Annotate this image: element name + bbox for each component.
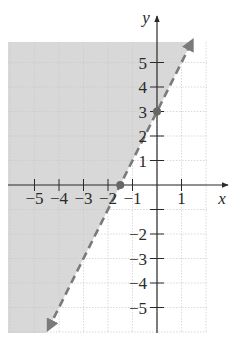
x-tick-label: −5 <box>25 189 43 208</box>
y-tick-label: 3 <box>139 103 148 122</box>
y-tick-label: 2 <box>139 127 148 146</box>
intercept-point <box>153 108 161 116</box>
x-tick-label: −2 <box>99 189 117 208</box>
x-tick-label: −1 <box>123 189 141 208</box>
shaded-region <box>8 42 192 333</box>
x-tick-label: −4 <box>50 189 69 208</box>
y-tick-label: 4 <box>139 78 148 97</box>
x-tick-label: 1 <box>177 189 186 208</box>
x-axis-label: x <box>217 189 226 208</box>
y-axis-label: y <box>140 8 150 27</box>
y-tick-label: −3 <box>129 250 147 269</box>
x-tick-label: −3 <box>74 189 92 208</box>
shaded-polygon <box>8 42 192 333</box>
y-tick-label: −5 <box>129 299 147 318</box>
y-tick-label: 5 <box>139 54 148 73</box>
y-tick-label: −4 <box>129 274 148 293</box>
inequality-graph: xy −5−4−3−2−1154321−2−3−4−5 <box>0 0 236 341</box>
y-tick-label: −2 <box>129 225 147 244</box>
y-tick-label: 1 <box>139 152 148 171</box>
intercept-point <box>116 181 124 189</box>
